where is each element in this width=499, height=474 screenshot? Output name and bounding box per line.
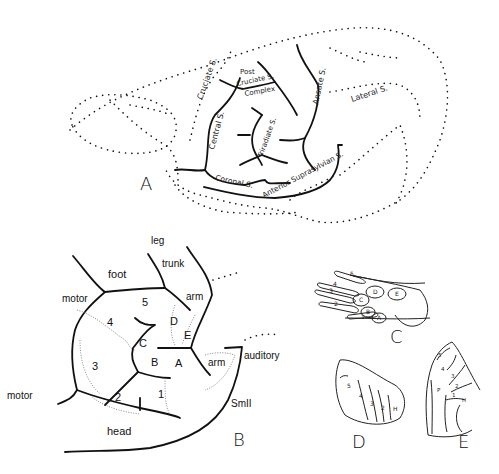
label-digit-3: 3 bbox=[92, 360, 98, 372]
b-dotted-4 bbox=[165, 378, 170, 415]
strip-2: 2 bbox=[381, 404, 385, 411]
triradiate-branch-4 bbox=[262, 155, 287, 163]
label-pad-d: D bbox=[170, 315, 178, 327]
paw-pad-b: B bbox=[366, 308, 370, 315]
panel-c: 5 4 3 2 1 D E C B A C bbox=[315, 270, 430, 347]
b-border-left-top bbox=[58, 256, 105, 404]
upper-dots bbox=[330, 48, 365, 62]
panel-d: 5 4 3 2 H D bbox=[336, 360, 405, 452]
strip-5: 5 bbox=[347, 382, 351, 389]
label-digit-4: 4 bbox=[107, 316, 113, 328]
b-dots-auditory bbox=[245, 334, 280, 340]
label-motor-top: motor bbox=[62, 293, 88, 304]
b-border-b-1 bbox=[138, 372, 170, 378]
paw-digit-5: 5 bbox=[350, 270, 354, 277]
label-foot: foot bbox=[108, 268, 126, 280]
label-auditory: auditory bbox=[244, 350, 280, 361]
label-smii: SmII bbox=[231, 398, 252, 409]
b-border-inner-2 bbox=[140, 408, 180, 418]
label-post-cruciate-1: Post bbox=[240, 68, 255, 76]
strip-3: 3 bbox=[370, 400, 374, 407]
paw-digit-2: 2 bbox=[334, 300, 338, 307]
label-triradiate-sulcus: Triradiate S. bbox=[256, 117, 278, 160]
label-arm-top: arm bbox=[186, 291, 203, 302]
panel-d-outline bbox=[336, 360, 405, 424]
label-leg: leg bbox=[151, 235, 164, 246]
panel-e: 5 4 3 2 P 1 H E bbox=[426, 342, 480, 452]
label-motor-bottom: motor bbox=[7, 390, 33, 401]
triradiate-branch-1 bbox=[252, 108, 262, 115]
strip-h: H bbox=[393, 405, 398, 412]
panel-b: leg trunk foot motor arm arm auditory Sm… bbox=[7, 235, 280, 452]
label-digit-5: 5 bbox=[142, 296, 148, 308]
paw-pad-e: E bbox=[395, 290, 399, 297]
e-strip-3: 3 bbox=[451, 373, 455, 379]
label-arm-bottom: arm bbox=[208, 357, 225, 368]
strip-4: 4 bbox=[359, 392, 363, 399]
suprasylvian-dots bbox=[340, 125, 407, 205]
label-pad-e: E bbox=[184, 329, 191, 341]
figure-canvas: Cruciate S. Post Cruciate S. Complex Cen… bbox=[0, 0, 499, 474]
e-strip-p: P bbox=[437, 387, 441, 393]
paw-pad-a: A bbox=[377, 314, 382, 321]
e-strip-5: 5 bbox=[438, 352, 442, 358]
paw-digit-4: 4 bbox=[333, 280, 337, 287]
paw-digit-3: 3 bbox=[329, 287, 333, 294]
panel-label-b: B bbox=[233, 429, 245, 450]
panel-label-c: C bbox=[390, 326, 403, 347]
label-pad-a: A bbox=[175, 357, 183, 369]
paw-pad-c: C bbox=[359, 296, 363, 303]
frontal-loop bbox=[71, 95, 176, 154]
label-anterior-suprasylvian-sulcus: Anterior Suprasylvian S. bbox=[261, 149, 345, 199]
label-cruciate-sulcus: Cruciate S. bbox=[195, 57, 218, 101]
label-coronal-sulcus: Coronal S. bbox=[215, 173, 254, 190]
b-border-arm bbox=[187, 247, 212, 375]
label-pad-b: B bbox=[151, 356, 158, 368]
panel-a: Cruciate S. Post Cruciate S. Complex Cen… bbox=[70, 28, 448, 223]
b-dots-arm bbox=[213, 272, 240, 280]
panel-label-e: E bbox=[458, 431, 469, 452]
panel-label-a: A bbox=[140, 173, 152, 194]
b-border-inner-1 bbox=[77, 390, 140, 408]
paw-digit-1: 1 bbox=[361, 313, 365, 320]
label-ansate-sulcus: Ansate S. bbox=[311, 67, 328, 106]
e-strip-4: 4 bbox=[441, 366, 445, 372]
label-digit-1: 1 bbox=[158, 388, 164, 400]
e-strip-h: H bbox=[462, 397, 466, 403]
label-lateral-sulcus: Lateral S. bbox=[350, 84, 389, 104]
ansate-sulcus bbox=[297, 45, 318, 170]
label-head: head bbox=[107, 425, 131, 437]
label-digit-2: 2 bbox=[115, 391, 121, 403]
upper-dots-2 bbox=[360, 52, 400, 58]
e-strip-1: 1 bbox=[452, 392, 456, 398]
frontal-inner-2 bbox=[130, 105, 170, 115]
e-strip-2: 2 bbox=[455, 383, 459, 389]
b-border-3-2 bbox=[105, 372, 138, 405]
frontal-inner bbox=[110, 100, 178, 180]
label-post-cruciate-3: Complex bbox=[244, 85, 276, 98]
panel-label-d: D bbox=[352, 431, 366, 452]
panel-e-outline bbox=[426, 342, 480, 437]
paw-pad-d: D bbox=[373, 288, 378, 295]
ansate-branch bbox=[280, 138, 305, 140]
label-pad-c: C bbox=[139, 337, 147, 349]
b-border-motor-foot bbox=[105, 288, 165, 292]
b-dotted-1 bbox=[77, 310, 135, 350]
label-trunk: trunk bbox=[162, 258, 185, 269]
